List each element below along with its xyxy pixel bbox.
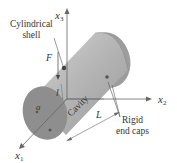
small-length-label: l	[56, 88, 59, 98]
shell-label-line2: shell	[10, 31, 53, 41]
shell-label: Cylindrical shell	[10, 20, 53, 40]
x2-axis-label: x2	[158, 94, 166, 107]
x2-sub: 2	[163, 99, 167, 107]
x3-axis-label: x3	[55, 10, 63, 23]
shell-label-line1: Cylindrical	[10, 20, 53, 30]
radius-label: a	[36, 103, 41, 112]
end-caps-line1: Rigid	[116, 116, 149, 126]
x1-axis-label: x1	[15, 150, 23, 163]
x1-sub: 1	[20, 155, 24, 163]
x3-sub: 3	[60, 15, 64, 23]
force-label: F	[46, 53, 52, 63]
end-caps-line2: end caps	[116, 127, 149, 137]
length-label: L	[96, 110, 102, 120]
end-caps-label: Rigid end caps	[116, 116, 149, 136]
